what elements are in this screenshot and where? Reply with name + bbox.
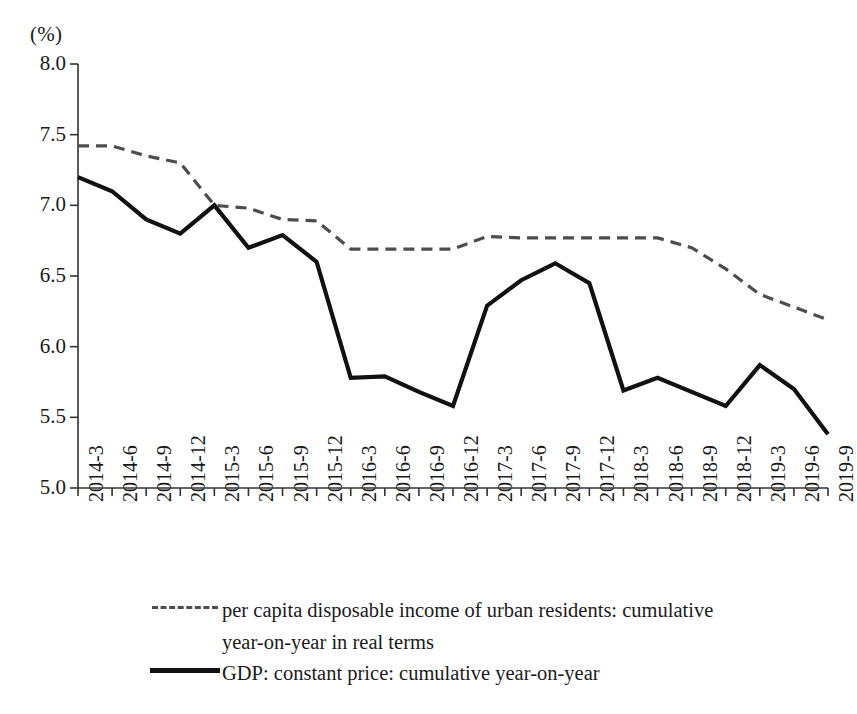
legend-label-gdp: GDP: constant price: cumulative year-on-… [222,659,600,689]
chart-legend: per capita disposable income of urban re… [150,596,840,691]
y-axis-ticks [70,64,78,488]
solid-line-icon [150,659,222,681]
legend-item-gdp: GDP: constant price: cumulative year-on-… [150,659,840,689]
series-line-gdp [78,177,828,434]
series-lines [78,146,828,434]
legend-label-income-line2: year-on-year in real terms [222,628,434,658]
series-line-income [78,146,828,320]
legend-item-income-line2: year-on-year in real terms [222,628,840,658]
dashed-line-icon [150,596,222,618]
legend-label-income-line1: per capita disposable income of urban re… [222,596,713,626]
legend-item-income: per capita disposable income of urban re… [150,596,840,626]
axis-lines [78,64,828,488]
x-axis-ticks [78,488,828,496]
